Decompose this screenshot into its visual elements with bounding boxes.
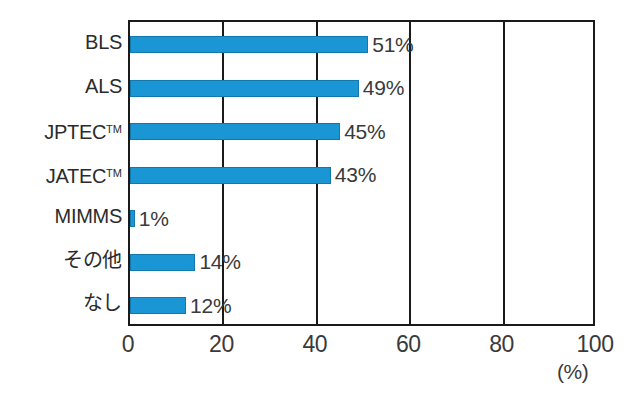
- category-label-0: BLS: [0, 34, 122, 51]
- x-axis-unit-label: (%): [557, 360, 588, 384]
- bar-value-label: 1%: [139, 207, 169, 231]
- bar: [130, 80, 359, 97]
- category-label-3: JATECTM: [0, 165, 122, 185]
- x-tick-label-0: 0: [122, 331, 134, 358]
- bar: [130, 36, 368, 53]
- bar-value-label: 14%: [199, 250, 240, 274]
- bar-value-label: 49%: [363, 76, 404, 100]
- category-label-5: その他: [0, 252, 122, 269]
- category-label-6: なし: [0, 295, 122, 312]
- category-label-1: ALS: [0, 78, 122, 95]
- bar-chart: BLSALSJPTECTMJATECTMMIMMSその他なし 51%49%45%…: [0, 0, 631, 396]
- bar: [130, 210, 135, 227]
- tickmark-60: [409, 315, 411, 324]
- bar-row: 43%: [130, 167, 597, 184]
- trademark-symbol: TM: [106, 167, 122, 179]
- bar-row: 12%: [130, 297, 597, 314]
- x-tick-label-40: 40: [303, 331, 328, 358]
- bar: [130, 254, 195, 271]
- x-tick-label-60: 60: [396, 331, 421, 358]
- bar: [130, 167, 331, 184]
- bar-row: 14%: [130, 254, 597, 271]
- x-tick-label-20: 20: [209, 331, 234, 358]
- bar-row: 49%: [130, 80, 597, 97]
- bar-value-label: 45%: [344, 120, 385, 144]
- tickmark-80: [503, 315, 505, 324]
- bar: [130, 123, 340, 140]
- bar: [130, 297, 186, 314]
- trademark-symbol: TM: [106, 123, 122, 135]
- bar-row: 45%: [130, 123, 597, 140]
- x-tick-label-80: 80: [489, 331, 514, 358]
- plot-area: 51%49%45%43%1%14%12%: [128, 20, 595, 326]
- bar-row: 51%: [130, 36, 597, 53]
- x-tick-label-100: 100: [577, 331, 614, 358]
- bar-value-label: 12%: [190, 294, 231, 318]
- bar-row: 1%: [130, 210, 597, 227]
- bar-value-label: 51%: [372, 33, 413, 57]
- category-label-4: MIMMS: [0, 208, 122, 225]
- tickmark-40: [316, 315, 318, 324]
- bar-value-label: 43%: [335, 163, 376, 187]
- category-label-2: JPTECTM: [0, 121, 122, 141]
